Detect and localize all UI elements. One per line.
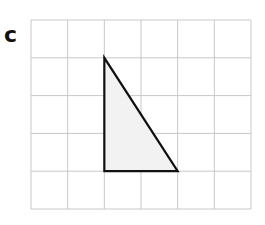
grid-diagram xyxy=(0,0,265,225)
